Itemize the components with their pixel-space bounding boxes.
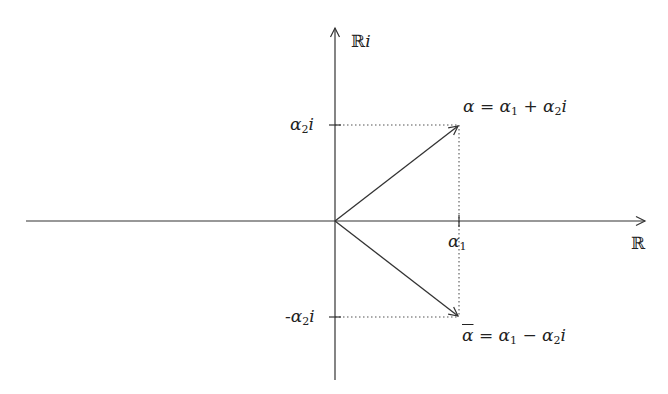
alpha-symbol: α (463, 96, 474, 116)
alpha-symbol: α (543, 96, 554, 116)
tick-label-alpha2i: α2i (290, 116, 314, 133)
vector-alpha-conjugate (335, 221, 458, 316)
imaginary-unit: i (309, 306, 314, 326)
imaginary-unit: i (365, 31, 370, 51)
tick-label-alpha1: α1 (448, 233, 466, 250)
subscript: 2 (554, 334, 561, 347)
equals-sign: = (474, 96, 499, 116)
subscript: 2 (555, 105, 562, 118)
alpha-symbol: α (448, 231, 459, 251)
complex-plane-diagram (0, 0, 668, 394)
tick-label-neg-alpha2i: -α2i (285, 308, 315, 325)
subscript: 1 (459, 240, 466, 253)
alpha-symbol: α (542, 325, 553, 345)
plus-sign: + (518, 96, 543, 116)
alpha-conjugate-equation: α = α1 − α2i (462, 327, 566, 344)
alpha-symbol: α (291, 306, 302, 326)
vector-alpha (335, 126, 458, 221)
minus-sign: − (517, 325, 542, 345)
double-struck-r: ℝ (631, 233, 645, 253)
alpha-equation: α = α1 + α2i (463, 98, 567, 115)
alpha-symbol: α (500, 96, 511, 116)
imaginary-unit: i (561, 325, 566, 345)
imaginary-unit: i (562, 96, 567, 116)
subscript: 1 (510, 334, 517, 347)
imaginary-unit: i (308, 114, 313, 134)
equals-sign: = (473, 325, 498, 345)
subscript: 1 (511, 105, 518, 118)
imaginary-axis-label: ℝi (351, 33, 371, 50)
alpha-symbol: α (290, 114, 301, 134)
alpha-symbol: α (499, 325, 510, 345)
real-axis-label: ℝ (631, 235, 645, 252)
alpha-bar-symbol: α (462, 325, 473, 345)
double-struck-r: ℝ (351, 31, 365, 51)
